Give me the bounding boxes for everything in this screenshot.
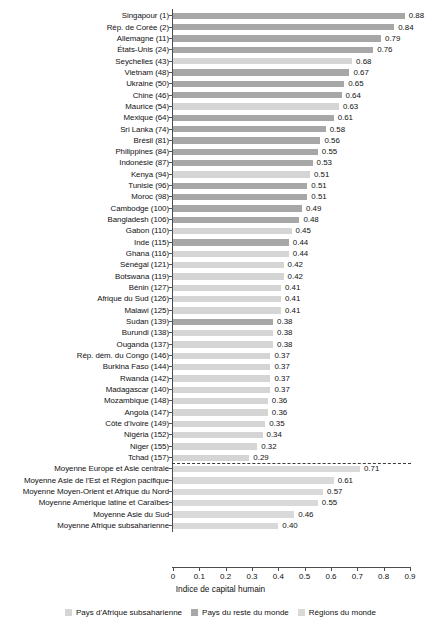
bar: [173, 387, 270, 393]
bar-row: Ghana (116)0.44: [0, 248, 441, 259]
bar: [173, 409, 268, 415]
bar-row: Moroc (98)0.51: [0, 191, 441, 202]
bar-row: Niger (155)0.32: [0, 441, 441, 452]
bar-value-label: 0.79: [385, 33, 400, 44]
bar-row: Sri Lanka (74)0.58: [0, 124, 441, 135]
bar-row: Vietnam (48)0.67: [0, 67, 441, 78]
bar: [173, 149, 318, 155]
bar-value-label: 0.51: [311, 191, 326, 202]
x-axis-tick: [357, 568, 358, 571]
bar-category-label: Rép. dém. du Congo (146): [77, 350, 169, 361]
bar-category-label: Moyenne Asie de l'Est et Région pacifiqu…: [24, 475, 169, 486]
bar-category-label: États-Unis (24): [117, 44, 169, 55]
bar-value-label: 0.57: [327, 486, 342, 497]
bar-category-label: Philippines (84): [115, 146, 169, 157]
bar-category-label: Brésil (81): [134, 135, 169, 146]
bar-value-label: 0.71: [364, 463, 379, 474]
bar-row: Côte d'Ivoire (149)0.35: [0, 418, 441, 429]
x-axis-tick: [331, 568, 332, 571]
bar-row: Moyenne Asie de l'Est et Région pacifiqu…: [0, 475, 441, 486]
bar: [173, 375, 270, 381]
bar: [173, 35, 381, 41]
bar: [173, 319, 273, 325]
bar-value-label: 0.38: [277, 339, 292, 350]
bar: [173, 171, 310, 177]
bar-row: Chine (46)0.64: [0, 90, 441, 101]
bar-value-label: 0.38: [277, 327, 292, 338]
bar-value-label: 0.41: [285, 293, 300, 304]
bar: [173, 443, 257, 449]
bar-row: Moyenne Europe et Asie centrale0.71: [0, 463, 441, 474]
bar-row: Tunisie (96)0.51: [0, 180, 441, 191]
bar-row: Tchad (157)0.29: [0, 452, 441, 463]
bar-category-label: Inde (115): [134, 237, 169, 248]
bar-row: Bangladesh (106)0.48: [0, 214, 441, 225]
x-axis-tick: [305, 568, 306, 571]
bar-row: États-Unis (24)0.76: [0, 44, 441, 55]
bar-value-label: 0.76: [377, 44, 392, 55]
bar-value-label: 0.41: [285, 282, 300, 293]
bar-row: Cambodge (100)0.49: [0, 203, 441, 214]
bar-value-label: 0.36: [272, 407, 287, 418]
bar: [173, 500, 318, 506]
bar-row: Mexique (64)0.61: [0, 112, 441, 123]
x-axis-tick: [410, 568, 411, 571]
bar-value-label: 0.36: [272, 395, 287, 406]
bar: [173, 69, 349, 75]
bar: [173, 228, 292, 234]
bar-category-label: Moyenne Amérique latine et Caraïbes: [39, 497, 169, 508]
bar-category-label: Rwanda (142): [120, 373, 169, 384]
x-axis-tick-label: 0.6: [325, 572, 336, 581]
bar-value-label: 0.37: [274, 373, 289, 384]
bar-value-label: 0.35: [269, 418, 284, 429]
x-axis-line: [172, 567, 411, 568]
bar-category-label: Malawi (125): [124, 305, 169, 316]
bar-category-label: Côte d'Ivoire (149): [105, 418, 169, 429]
bar: [173, 160, 313, 166]
bar-value-label: 0.55: [322, 497, 337, 508]
legend-item: Pays d'Afrique subsaharienne: [65, 608, 182, 617]
bar-row: Nigéria (152)0.34: [0, 429, 441, 440]
chart-legend: Pays d'Afrique subsahariennePays du rest…: [0, 608, 441, 617]
bar-category-label: Bangladesh (106): [108, 214, 170, 225]
bar-value-label: 0.44: [293, 237, 308, 248]
bar-row: Moyenne Amérique latine et Caraïbes0.55: [0, 497, 441, 508]
bar-row: Afrique du Sud (126)0.41: [0, 293, 441, 304]
legend-swatch-icon: [65, 609, 72, 616]
bar-value-label: 0.51: [314, 169, 329, 180]
x-axis-tick: [226, 568, 227, 571]
bar-category-label: Madagascar (140): [106, 384, 169, 395]
bar-row: Sénégal (121)0.42: [0, 259, 441, 270]
bar-value-label: 0.48: [303, 214, 318, 225]
bar-row: Bénin (127)0.41: [0, 282, 441, 293]
bar-row: Rép. de Corée (2)0.84: [0, 22, 441, 33]
bar-row: Botswana (119)0.42: [0, 271, 441, 282]
x-axis-tick-label: 0.5: [299, 572, 310, 581]
bar-category-label: Indonésie (87): [119, 157, 169, 168]
bar-row: Moyenne Moyen-Orient et Afrique du Nord0…: [0, 486, 441, 497]
x-axis-tick-label: 0.9: [404, 572, 415, 581]
bar-value-label: 0.29: [253, 452, 268, 463]
bar-row: Rép. dém. du Congo (146)0.37: [0, 350, 441, 361]
bar-value-label: 0.51: [311, 180, 326, 191]
bar-category-label: Ukraine (50): [126, 78, 169, 89]
bar-row: Ukraine (50)0.65: [0, 78, 441, 89]
bar-row: Ouganda (137)0.38: [0, 339, 441, 350]
bar-row: Inde (115)0.44: [0, 237, 441, 248]
bar-category-label: Burkina Faso (144): [103, 361, 169, 372]
bar: [173, 251, 289, 257]
bar: [173, 273, 284, 279]
bar-row: Sudan (139)0.38: [0, 316, 441, 327]
bar-row: Mozambique (148)0.36: [0, 395, 441, 406]
bar: [173, 477, 334, 483]
bar-category-label: Moroc (98): [131, 191, 169, 202]
bar-value-label: 0.53: [317, 157, 332, 168]
bar-category-label: Burundi (138): [122, 327, 169, 338]
bar-category-label: Moyenne Europe et Asie centrale: [54, 463, 169, 474]
bar-category-label: Maurice (54): [125, 101, 169, 112]
bar-category-label: Ouganda (137): [117, 339, 169, 350]
bar-row: Allemagne (11)0.79: [0, 33, 441, 44]
bar: [173, 353, 270, 359]
bar: [173, 511, 294, 517]
bar-row: Moyenne Asie du Sud0.46: [0, 509, 441, 520]
